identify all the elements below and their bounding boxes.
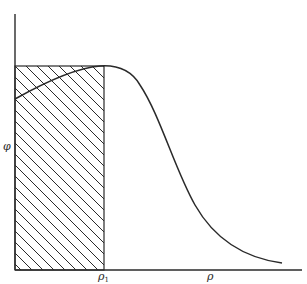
y-axis-label: φ [3,141,11,152]
hatch-line [103,66,307,270]
hatch-line [0,66,65,270]
hatch-line [0,66,175,270]
rho1-tick-label: ρ1 [98,271,109,284]
hatch-line [0,66,43,270]
hatch-line [0,66,32,270]
hatch-line [81,66,285,270]
x-axis-label: ρ [207,271,213,282]
hatch-line [0,66,76,270]
hatch-line [0,66,164,270]
hatch-line [0,66,10,270]
hatch-line [125,66,307,270]
rho1-subscript: 1 [104,276,108,284]
hatch-line [114,66,307,270]
hatch-line [0,66,109,270]
hatch-line [92,66,296,270]
hatch-line [0,66,142,270]
hatched-region [0,66,307,270]
hatch-line [0,66,186,270]
hatch-line [0,66,87,270]
